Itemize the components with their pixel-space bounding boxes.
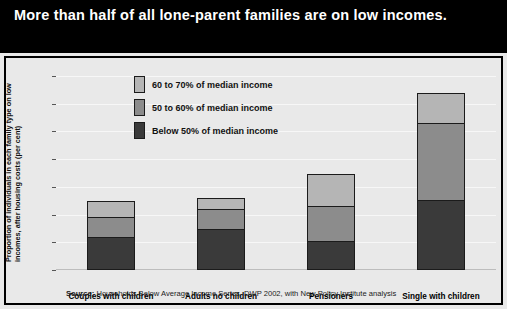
chart-legend: 60 to 70% of median income50 to 60% of m… [134,74,278,143]
chart-title: More than half of all lone-parent famili… [14,6,493,25]
bar-segment[interactable] [198,230,244,269]
bar-segment[interactable] [308,242,354,269]
y-axis-tick-mark [52,131,56,132]
chart-figure: More than half of all lone-parent famili… [0,0,507,309]
legend-label: Below 50% of median income [152,126,278,136]
legend-item[interactable]: Below 50% of median income [134,120,278,141]
y-axis-tick-mark [52,76,56,77]
bar-segment[interactable] [308,175,354,206]
y-axis-tick-mark [52,187,56,188]
legend-swatch [134,99,145,116]
y-axis-tick-mark [52,159,56,160]
y-axis-title: Proportion of individuals in each family… [4,66,22,262]
x-axis-category-label: Single with children [402,292,479,301]
bar-segment[interactable] [88,202,134,218]
bar-stack[interactable] [307,174,355,270]
y-axis-tick-mark [52,215,56,216]
legend-swatch [134,76,145,93]
source-note: Source: Households Below Average Income … [66,289,396,298]
bar-segment[interactable] [88,218,134,236]
y-axis-tick-mark [52,242,56,243]
bar-segment[interactable] [418,201,464,269]
legend-label: 60 to 70% of median income [152,80,273,90]
bar-segment[interactable] [198,210,244,228]
bar-segment[interactable] [308,207,354,242]
bar-segment[interactable] [418,94,464,124]
legend-swatch [134,122,145,139]
source-label: Source: [66,289,94,298]
bar-stack[interactable] [197,198,245,270]
legend-label: 50 to 60% of median income [152,103,273,113]
bar-stack[interactable] [87,201,135,270]
source-text: Households Below Average Income Series, … [94,289,396,298]
title-banner: More than half of all lone-parent famili… [0,0,507,53]
chart-frame: Proportion of individuals in each family… [4,56,503,305]
legend-item[interactable]: 50 to 60% of median income [134,97,278,118]
y-axis-tick-mark [52,270,56,271]
bar-segment[interactable] [198,199,244,209]
bar-stack[interactable] [417,93,465,270]
y-axis-tick-mark [52,104,56,105]
bar-segment[interactable] [418,124,464,200]
legend-item[interactable]: 60 to 70% of median income [134,74,278,95]
bar-segment[interactable] [88,238,134,269]
